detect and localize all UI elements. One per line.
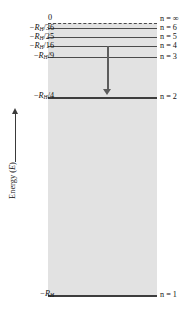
quantum-number-label-n5: n = 5 — [160, 33, 177, 41]
quantum-number-label-n3: n = 3 — [160, 53, 177, 61]
quantum-number-label-n2: n = 2 — [160, 93, 177, 101]
quantum-number-label-n6: n = 6 — [160, 24, 177, 32]
energy-label-n3-denom: /9 — [48, 51, 54, 60]
transition-arrow-shaft — [107, 46, 109, 91]
level-line-n2 — [48, 97, 157, 99]
energy-label-inf: 0 — [48, 14, 52, 22]
level-line-n5 — [48, 37, 157, 38]
level-line-inf — [48, 23, 157, 24]
energy-label-n5-denom: /25 — [44, 32, 54, 41]
energy-label-inf-value: 0 — [48, 13, 52, 22]
level-line-n6 — [48, 28, 157, 29]
energy-label-n4-denom: /16 — [44, 41, 54, 50]
diagram-panel — [48, 23, 157, 295]
quantum-number-label-n4: n = 4 — [160, 42, 177, 50]
energy-axis-label-text: Energy ( — [8, 170, 17, 199]
energy-label-n1: −RH — [40, 290, 54, 299]
quantum-number-label-n1: n = 1 — [160, 291, 177, 299]
energy-level-diagram: Energy (E) 0 −RH/36 −RH/25 −RH/16 −RH/9 … — [0, 0, 187, 310]
quantum-number-label-inf: n = ∞ — [160, 15, 179, 23]
energy-label-n6-denom: /36 — [44, 23, 54, 32]
energy-label-n2: −RH/4 — [34, 92, 54, 101]
energy-label-n2-denom: /4 — [48, 91, 54, 100]
level-line-n3 — [48, 57, 157, 58]
energy-label-n4: −RH/16 — [30, 42, 54, 51]
energy-axis-label-close: ) — [8, 162, 17, 165]
energy-axis-label: Energy (E) — [8, 151, 17, 211]
energy-label-n3: −RH/9 — [34, 52, 54, 61]
level-line-n4 — [48, 46, 157, 47]
transition-arrow-head — [103, 89, 111, 95]
energy-label-n1-sub: H — [50, 292, 54, 298]
level-line-n1 — [48, 295, 157, 297]
energy-axis-label-var: E — [8, 165, 17, 170]
